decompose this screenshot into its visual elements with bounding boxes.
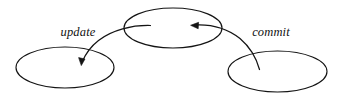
node-left-ellipse[interactable] [16,47,114,88]
commit-arrowhead-icon [191,22,199,29]
diagram-svg: update commit [0,0,345,98]
update-edge-label: update [61,25,96,39]
node-center-ellipse[interactable] [124,8,222,48]
commit-edge-curve[interactable] [195,25,260,70]
node-right-ellipse[interactable] [228,51,327,92]
update-arrowhead-icon [79,58,85,66]
diagram-canvas: update commit [0,0,345,98]
commit-edge-label: commit [252,25,290,39]
